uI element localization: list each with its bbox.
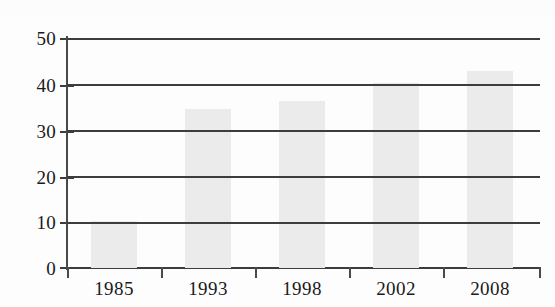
bar-1993 [185, 109, 231, 268]
scan-artifact-band [0, 0, 555, 16]
gridline-40 [67, 84, 540, 86]
gridline-30 [67, 130, 540, 132]
x-axis-label-2002: 2002 [349, 278, 443, 299]
gridline-20 [67, 176, 540, 178]
x-tick-1 [161, 267, 163, 278]
x-axis-label-1998: 1998 [255, 278, 349, 299]
y-axis-label-40: 40 [10, 76, 56, 95]
bar-1985 [91, 221, 137, 268]
y-axis-label-30: 30 [10, 122, 56, 141]
x-tick-5 [539, 267, 541, 278]
x-axis-label-2008: 2008 [443, 278, 537, 299]
bar-chart: 50 40 30 20 10 0 1985 1993 1998 2002 [0, 0, 555, 307]
x-axis-label-1993: 1993 [161, 278, 255, 299]
x-tick-4 [443, 267, 445, 278]
bar-1998 [279, 101, 325, 268]
gridline-50 [67, 38, 540, 40]
x-tick-3 [349, 267, 351, 278]
plot-area [67, 38, 540, 268]
x-tick-0 [67, 267, 69, 278]
y-axis-label-20: 20 [10, 168, 56, 187]
bar-2008 [467, 71, 513, 268]
x-axis-label-1985: 1985 [67, 278, 161, 299]
y-axis-label-50: 50 [10, 29, 56, 48]
y-axis-label-10: 10 [10, 213, 56, 232]
x-tick-2 [255, 267, 257, 278]
y-axis-label-0: 0 [10, 259, 56, 278]
gridline-10 [67, 222, 540, 224]
y-axis-labels: 50 40 30 20 10 0 [0, 0, 56, 307]
